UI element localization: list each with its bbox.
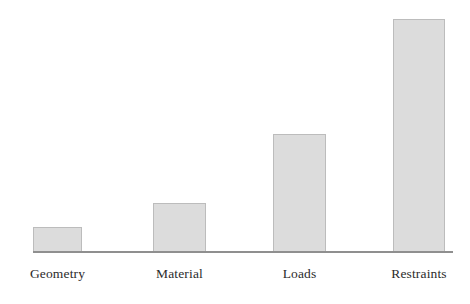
x-axis-line — [33, 251, 453, 253]
x-tick-label-restraints: Restraints — [359, 265, 470, 282]
bar-geometry[interactable] — [33, 227, 82, 251]
bar-restraints[interactable] — [393, 19, 445, 251]
bar-material[interactable] — [153, 203, 206, 251]
bar-loads[interactable] — [273, 134, 326, 251]
plot-area: Geometry Material Loads Restraints — [0, 0, 470, 304]
x-tick-label-material: Material — [120, 265, 240, 282]
bar-chart: Geometry Material Loads Restraints — [0, 0, 470, 304]
x-tick-label-loads: Loads — [240, 265, 360, 282]
x-tick-label-geometry: Geometry — [0, 265, 118, 282]
